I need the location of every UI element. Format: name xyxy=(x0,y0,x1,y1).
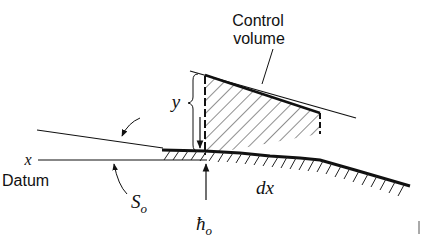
control-volume xyxy=(205,75,320,155)
energy-line xyxy=(37,130,163,148)
slope-label: So xyxy=(131,191,148,216)
datum-label: Datum xyxy=(2,172,49,189)
channel-bed xyxy=(162,150,410,196)
bed-elevation-label: ħo xyxy=(196,213,213,238)
depth-brace xyxy=(188,74,198,151)
slope-pointer-arrow xyxy=(114,164,127,194)
control-volume-label-1: Control xyxy=(232,12,284,29)
depth-label: y xyxy=(170,91,181,112)
control-volume-leader xyxy=(262,49,273,84)
x-axis-label: x xyxy=(23,151,31,168)
control-volume-label-2: volume xyxy=(233,30,285,47)
dx-label: dx xyxy=(256,177,275,198)
flow-diagram: Control volume y x Datum So xyxy=(0,0,421,240)
upper-line-pointer-arrow xyxy=(122,118,140,136)
